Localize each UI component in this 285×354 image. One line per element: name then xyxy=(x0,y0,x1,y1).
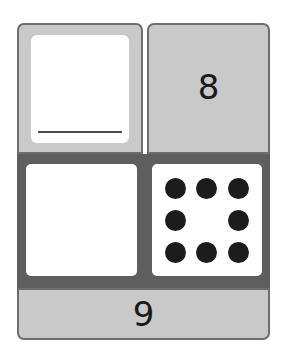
blank-box[interactable] xyxy=(26,164,137,276)
number-label-bottom: 9 xyxy=(19,294,268,334)
top-right-cell: 8 xyxy=(147,23,270,154)
dot-grid xyxy=(160,172,254,268)
bottom-strip: 9 xyxy=(17,288,270,340)
number-label: 8 xyxy=(149,67,268,107)
dot-icon xyxy=(165,242,186,263)
top-left-cell xyxy=(17,23,143,154)
dot-icon xyxy=(196,178,217,199)
answer-line xyxy=(38,131,122,133)
number-worksheet-card: 8 9 xyxy=(17,23,270,340)
dot-icon xyxy=(165,210,186,231)
dot-icon xyxy=(228,178,249,199)
middle-band xyxy=(17,154,270,288)
dot-box xyxy=(152,164,262,276)
dot-icon xyxy=(196,242,217,263)
dot-icon xyxy=(228,242,249,263)
dot-icon xyxy=(165,178,186,199)
empty-dot-slot xyxy=(196,210,217,231)
dot-icon xyxy=(228,210,249,231)
answer-box[interactable] xyxy=(31,35,129,143)
